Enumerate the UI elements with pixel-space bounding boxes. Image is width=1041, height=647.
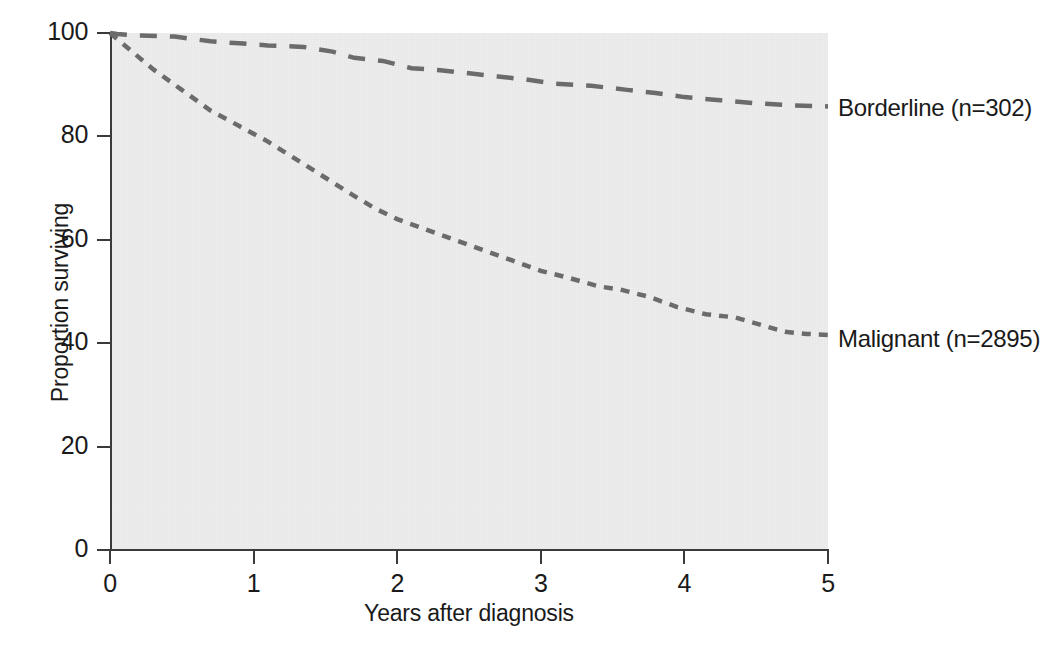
x-tick-label-1: 1 [224,569,284,597]
x-tick-mark-2 [396,551,398,564]
x-tick-mark-4 [683,551,685,564]
y-tick-label: 100 [8,19,88,44]
y-tick-0: 0 [0,549,110,551]
y-tick-mark [97,342,110,344]
x-tick-label-3: 3 [511,569,571,597]
survival-curve-figure: 020406080100 012345 Proportion surviving… [0,0,1041,647]
x-tick-label-5: 5 [798,569,858,597]
y-axis-title: Proportion surviving [49,133,72,473]
y-tick-mark [97,446,110,448]
y-axis-line [110,33,112,551]
y-tick-mark [97,239,110,241]
y-tick-label: 0 [8,536,88,561]
x-tick-mark-3 [540,551,542,564]
x-axis-line [110,549,829,551]
x-tick-mark-0 [109,551,111,564]
y-tick-mark [97,135,110,137]
x-tick-mark-5 [827,551,829,564]
series-label-malignant: Malignant (n=2895) [838,327,1040,351]
series-label-borderline: Borderline (n=302) [838,96,1032,120]
x-axis-title: Years after diagnosis [110,602,828,625]
x-tick-mark-1 [253,551,255,564]
x-tick-label-4: 4 [654,569,714,597]
y-tick-mark [97,32,110,34]
plot-area-background [110,33,828,550]
x-tick-label-2: 2 [367,569,427,597]
y-tick-100: 100 [0,32,110,34]
x-tick-label-0: 0 [80,569,140,597]
